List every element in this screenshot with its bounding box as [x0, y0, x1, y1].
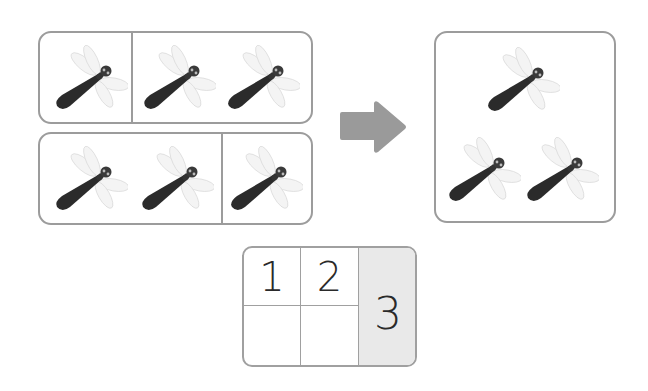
- dragonfly-icon: [223, 143, 303, 213]
- number-table: 1 2 3: [242, 246, 417, 367]
- cell-top-left: 1: [244, 248, 301, 306]
- cell-bottom-middle: [301, 306, 359, 367]
- right-arrow-icon: [338, 100, 408, 154]
- dragonfly-icon: [519, 134, 599, 204]
- dragonfly-icon: [134, 143, 214, 213]
- dragonfly-icon: [136, 42, 216, 112]
- top-group-divider: [131, 33, 133, 122]
- cell-total: 3: [359, 248, 417, 367]
- cell-bottom-left: [244, 306, 301, 367]
- dragonfly-icon: [220, 42, 300, 112]
- dragonfly-icon: [441, 134, 521, 204]
- dragonfly-icon: [48, 42, 128, 112]
- dragonfly-icon: [48, 143, 128, 213]
- cell-top-middle: 2: [301, 248, 359, 306]
- dragonfly-icon: [480, 44, 560, 114]
